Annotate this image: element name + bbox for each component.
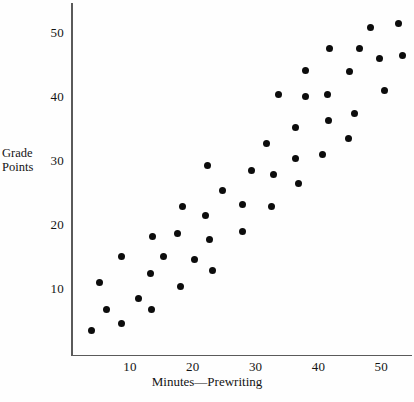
data-point xyxy=(149,233,156,240)
data-point xyxy=(148,306,155,313)
data-point xyxy=(367,24,374,31)
data-point xyxy=(239,228,246,235)
y-tick-label: 20 xyxy=(38,218,64,231)
data-point xyxy=(326,45,333,52)
data-point xyxy=(147,270,154,277)
data-point xyxy=(324,91,331,98)
data-point xyxy=(174,230,181,237)
data-point xyxy=(239,201,246,208)
data-point xyxy=(96,279,103,286)
plot-data-area xyxy=(0,0,414,402)
data-point xyxy=(118,253,125,260)
data-point xyxy=(268,203,275,210)
data-point xyxy=(325,117,332,124)
data-point xyxy=(177,283,184,290)
data-point xyxy=(346,68,353,75)
y-tick-label: 40 xyxy=(38,90,64,103)
data-point xyxy=(295,180,302,187)
y-tick-label: 10 xyxy=(38,282,64,295)
data-point xyxy=(263,140,270,147)
data-point xyxy=(319,151,326,158)
data-point xyxy=(292,155,299,162)
x-tick-label: 50 xyxy=(367,360,395,373)
data-point xyxy=(351,110,358,117)
data-point xyxy=(275,91,282,98)
x-tick-label: 10 xyxy=(116,360,144,373)
x-tick-label: 30 xyxy=(242,360,270,373)
data-point xyxy=(356,45,363,52)
data-point xyxy=(376,55,383,62)
data-point xyxy=(381,87,388,94)
scatter-plot-figure: Grade Points Minutes—Prewriting 10203040… xyxy=(0,0,414,402)
data-point xyxy=(302,93,309,100)
data-point xyxy=(135,295,142,302)
data-point xyxy=(248,167,255,174)
data-point xyxy=(88,327,95,334)
data-point xyxy=(270,171,277,178)
data-point xyxy=(202,212,209,219)
data-point xyxy=(160,253,167,260)
data-point xyxy=(395,20,402,27)
data-point xyxy=(103,306,110,313)
x-tick-label: 40 xyxy=(304,360,332,373)
data-point xyxy=(302,67,309,74)
x-tick-label: 20 xyxy=(179,360,207,373)
data-point xyxy=(204,162,211,169)
x-axis-title: Minutes—Prewriting xyxy=(0,374,414,389)
x-axis-line xyxy=(71,355,412,357)
y-axis-line xyxy=(71,3,73,355)
data-point xyxy=(219,187,226,194)
data-point xyxy=(179,203,186,210)
data-point xyxy=(209,267,216,274)
y-tick-label: 30 xyxy=(38,154,64,167)
data-point xyxy=(191,256,198,263)
data-point xyxy=(118,320,125,327)
y-tick-label: 50 xyxy=(38,26,64,39)
data-point xyxy=(292,124,299,131)
data-point xyxy=(345,135,352,142)
data-point xyxy=(399,52,406,59)
data-point xyxy=(206,236,213,243)
